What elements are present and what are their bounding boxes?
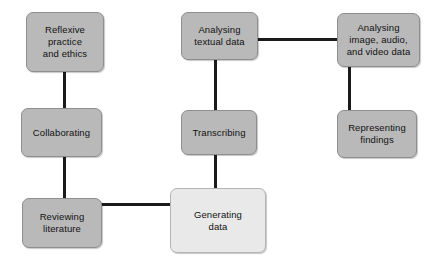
node-reflexive-practice-and-ethics: Reflexive practice and ethics — [26, 12, 104, 72]
connector-collaborating-to-reviewing-literature — [63, 157, 66, 199]
connector-reviewing-literature-to-generating-data — [100, 203, 172, 206]
node-generating-data: Generating data — [170, 188, 266, 253]
node-analysing-image-audio-and-video-data: Analysing image, audio, and video data — [337, 13, 420, 67]
node-analysing-textual-data: Analysing textual data — [181, 12, 258, 60]
node-label-representing-findings: Representing findings — [345, 122, 409, 146]
connector-reflexive-to-collaborating — [63, 72, 66, 109]
node-representing-findings: Representing findings — [337, 110, 417, 158]
connector-transcribing-to-generating-data — [214, 155, 217, 189]
node-label-transcribing: Transcribing — [189, 127, 248, 139]
node-transcribing: Transcribing — [181, 110, 257, 155]
node-reviewing-literature: Reviewing literature — [22, 198, 102, 248]
node-label-collaborating: Collaborating — [30, 127, 93, 139]
connector-analysing-textual-to-transcribing — [214, 60, 217, 111]
process-diagram: Reflexive practice and ethicsAnalysing t… — [0, 0, 434, 270]
node-label-reviewing-literature: Reviewing literature — [37, 211, 88, 235]
node-label-reflexive-practice-and-ethics: Reflexive practice and ethics — [40, 24, 90, 60]
node-label-analysing-textual-data: Analysing textual data — [191, 24, 247, 48]
node-label-generating-data: Generating data — [191, 209, 245, 233]
node-label-analysing-image-audio-and-video-data: Analysing image, audio, and video data — [344, 22, 414, 58]
node-collaborating: Collaborating — [21, 108, 102, 157]
connector-analysing-image-to-representing-findings — [348, 67, 351, 111]
connector-analysing-textual-to-analysing-image — [256, 38, 338, 41]
